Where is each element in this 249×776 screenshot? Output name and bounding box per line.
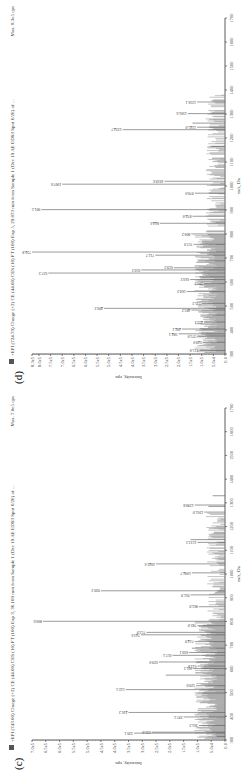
spectrum-peak: 1007.6 <box>51 182 225 186</box>
peak-label: 610.2 <box>180 277 189 281</box>
x-tick-label: 500 <box>229 302 234 310</box>
peak-label: 361.2 <box>189 723 198 727</box>
x-tick-label: 1200 <box>229 521 234 531</box>
x-tick-label: 300 <box>229 736 234 744</box>
legend-swatch-icon <box>9 745 14 750</box>
x-tick-label: 500 <box>229 688 234 696</box>
peak-label: 901.5 <box>32 207 41 211</box>
x-axis-label: m/z, Da <box>236 177 242 194</box>
y-tick-label: 5.0e4 <box>209 742 214 753</box>
peak-label: 511.2 <box>192 301 201 305</box>
peak-label: 1261.0 <box>193 510 204 514</box>
peak-label: 611.8 <box>188 664 197 668</box>
peak-label: 753.9 <box>137 630 146 634</box>
peak-label: 714.9 <box>185 639 194 643</box>
y-tick-label: 5.5e5 <box>95 356 100 367</box>
y-tick-label: 4.5e5 <box>118 356 123 367</box>
x-tick-label: 400 <box>229 712 234 720</box>
peak-label: 1019.6 <box>153 179 164 183</box>
spectrum-peak: 874.0 <box>183 214 225 218</box>
y-tick-label: 4.0e5 <box>130 356 135 367</box>
peak-label: 1133.3 <box>186 540 196 544</box>
peak-label: 724.8 <box>22 250 31 254</box>
x-tick-label: 400 <box>229 326 234 334</box>
peak-label: 911.9 <box>181 593 190 597</box>
spectrum-peak: 844.6 <box>150 221 225 225</box>
spectrum-peak: 861.9 <box>189 604 225 608</box>
spectrum-chart: (d)+EPI (724.79) Charge (+2) CE (44.00) … <box>0 0 249 390</box>
x-tick-label: 1000 <box>229 181 234 191</box>
x-tick-label: 1700 <box>229 13 234 23</box>
peak-label: 629.0 <box>149 660 158 664</box>
peak-label: 844.6 <box>150 221 159 225</box>
x-tick-label: 600 <box>229 278 234 286</box>
y-tick-label: 8.0e5 <box>37 356 42 367</box>
y-tick-label: 1.0e5 <box>199 356 204 367</box>
peak-label: 861.9 <box>189 604 198 608</box>
y-tick-label: 5.0e4 <box>211 356 216 367</box>
x-tick-label: 1700 <box>229 403 234 413</box>
x-tick-label: 700 <box>229 641 234 649</box>
y-tick-label: 6.5e5 <box>43 742 48 753</box>
max-intensity-label: Max. 8.3e5 cps <box>10 6 15 37</box>
spectrum-panel-c: (c)+EPI (743.00) Charge (+2) CE (44.00) … <box>0 390 249 776</box>
peak-label: 637.3 <box>39 271 48 275</box>
y-tick-label: 4.0e5 <box>112 742 117 753</box>
x-tick-label: 1600 <box>229 426 234 436</box>
y-tick-label: 2.0e5 <box>176 356 181 367</box>
spectrum-peak: 800.6 <box>33 619 225 623</box>
y-tick-label: 1.0e5 <box>195 742 200 753</box>
peak-label: 1301.6 <box>176 111 187 115</box>
spectrum-peak: 724.8 <box>22 250 225 254</box>
y-tick-label: 7.0e5 <box>30 742 35 753</box>
panel-label: (d) <box>12 371 25 384</box>
peak-label: 375.0 <box>187 334 196 338</box>
peak-label: 650.2 <box>132 268 141 272</box>
y-axis-label: Intensity, cps <box>115 374 141 380</box>
y-tick-label: 3.5e5 <box>141 356 146 367</box>
peak-label: 1042.6 <box>145 562 156 566</box>
y-tick-label: 2.5e5 <box>164 356 169 367</box>
panel-label: (c) <box>12 757 25 770</box>
x-tick-label: 1300 <box>229 109 234 119</box>
peak-label: 874.0 <box>183 214 192 218</box>
peak-label: 1290.8 <box>183 503 194 507</box>
legend-swatch-icon <box>9 359 14 364</box>
y-tick-label: 1.5e5 <box>181 742 186 753</box>
y-tick-label: 2.0e5 <box>167 742 172 753</box>
y-tick-label: 4.5e5 <box>99 742 104 753</box>
peak-label: 333.0 <box>142 730 151 734</box>
y-tick-label: 2.5e5 <box>154 742 159 753</box>
y-tick-label: 0.0 <box>223 742 228 748</box>
max-intensity-label: Max. 7.0e5 cps <box>10 396 15 427</box>
peak-label: 433.1 <box>194 320 203 324</box>
peak-label: 490.2 <box>94 306 103 310</box>
y-tick-label: 0.0 <box>223 356 228 362</box>
peak-label: 512.5 <box>116 687 125 691</box>
peak-label: 593.2 <box>194 281 203 285</box>
peak-label: 757.0 <box>184 242 193 246</box>
y-tick-label: 3.5e5 <box>126 742 131 753</box>
peak-label: 329.1 <box>124 731 133 735</box>
x-tick-label: 900 <box>229 594 234 602</box>
x-tick-label: 1400 <box>229 474 234 484</box>
spectrum-panel-d: (d)+EPI (724.79) Charge (+2) CE (44.00) … <box>0 0 249 390</box>
peak-label: 657.1 <box>163 653 172 657</box>
y-tick-label: 7.5e5 <box>48 356 53 367</box>
peak-label: 1004.7 <box>180 571 191 575</box>
x-tick-label: 1200 <box>229 133 234 143</box>
spectrum-peak: 929.2 <box>91 588 225 592</box>
spectrum-peak: 1234.7 <box>111 127 225 131</box>
peak-label: 1234.7 <box>111 127 122 131</box>
y-tick-label: 6.0e5 <box>57 742 62 753</box>
x-tick-label: 1500 <box>229 450 234 460</box>
peak-label: 669.1 <box>180 650 189 654</box>
peak-label: 404.1 <box>172 327 181 331</box>
spectrum-peak: 901.5 <box>32 207 225 211</box>
x-tick-label: 1400 <box>229 85 234 95</box>
spectrum-peak: 970.0 <box>185 191 225 195</box>
y-tick-label: 1.5e5 <box>188 356 193 367</box>
peak-label: 397.1 <box>174 715 183 719</box>
peak-label: 1350.1 <box>186 100 197 104</box>
peak-label: 711.7 <box>146 253 155 257</box>
